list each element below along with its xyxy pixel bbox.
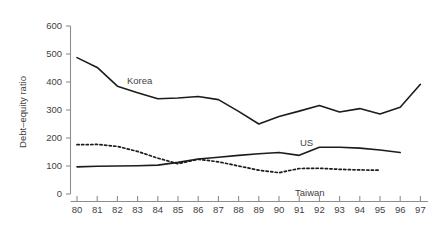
debt-equity-ratio-line-chart: Debt–equity ratio 600 500 400 300 200 10…: [0, 0, 432, 236]
y-tick-label-500: 500: [46, 48, 62, 59]
x-tick-label-88: 88: [233, 204, 244, 215]
y-tick-label-100: 100: [46, 160, 62, 171]
x-tick-label-84: 84: [153, 204, 164, 215]
x-tick-label-96: 96: [395, 204, 406, 215]
y-tick-label-0: 0: [57, 188, 62, 199]
x-tick-label-92: 92: [314, 204, 325, 215]
chart-container: Debt–equity ratio 600 500 400 300 200 10…: [0, 0, 432, 236]
x-tick-label-83: 83: [132, 204, 143, 215]
x-tick-label-85: 85: [173, 204, 184, 215]
x-tick-label-90: 90: [274, 204, 285, 215]
x-tick-label-86: 86: [193, 204, 204, 215]
y-tick-label-400: 400: [46, 76, 62, 87]
x-tick-label-82: 82: [112, 204, 123, 215]
x-tick-label-93: 93: [334, 204, 345, 215]
series-annotation-taiwan: Taiwan: [295, 187, 325, 198]
y-tick-label-300: 300: [46, 104, 62, 115]
series-annotation-us: US: [300, 137, 313, 148]
x-tick-label-95: 95: [375, 204, 386, 215]
x-tick-label-89: 89: [254, 204, 265, 215]
y-tick-label-600: 600: [46, 20, 62, 31]
y-tick-label-200: 200: [46, 132, 62, 143]
chart-background: [0, 0, 432, 236]
x-tick-label-80: 80: [72, 204, 83, 215]
x-tick-label-87: 87: [213, 204, 224, 215]
series-annotation-korea: Korea: [127, 75, 153, 86]
x-tick-label-91: 91: [294, 204, 305, 215]
y-axis-title: Debt–equity ratio: [17, 76, 28, 148]
x-tick-label-97: 97: [415, 204, 426, 215]
x-tick-label-94: 94: [355, 204, 366, 215]
x-tick-label-81: 81: [92, 204, 103, 215]
